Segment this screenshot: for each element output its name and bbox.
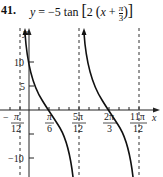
- svg-text:5π: 5π: [73, 111, 83, 122]
- svg-text:π: π: [14, 111, 20, 122]
- tangent-graph: y x 10 5 −10 − π 12 π 6: [0, 0, 163, 177]
- x-tick-pi-6: π 6: [45, 111, 54, 134]
- svg-text:11π: 11π: [130, 111, 145, 122]
- y-tick-10: 10: [14, 57, 24, 68]
- svg-text:12: 12: [133, 123, 143, 134]
- tangent-branch-2: [84, 33, 133, 177]
- svg-text:3: 3: [107, 123, 112, 134]
- svg-text:12: 12: [73, 123, 83, 134]
- svg-text:12: 12: [11, 123, 21, 134]
- y-tick-5: 5: [20, 81, 25, 92]
- x-tick-5pi-12: 5π 12: [72, 111, 86, 134]
- x-axis-label: x: [151, 112, 157, 123]
- tangent-branch-1: [25, 33, 73, 177]
- x-tick-11pi-12: 11π 12: [130, 111, 147, 134]
- svg-text:−: −: [3, 112, 9, 123]
- svg-text:6: 6: [47, 123, 52, 134]
- y-tick-neg-10: −10: [8, 153, 24, 164]
- x-tick-neg-pi-12: − π 12: [3, 111, 24, 134]
- x-tick-2pi-3: 2π 3: [103, 111, 117, 134]
- branch-2-arrow-icon: [82, 28, 87, 35]
